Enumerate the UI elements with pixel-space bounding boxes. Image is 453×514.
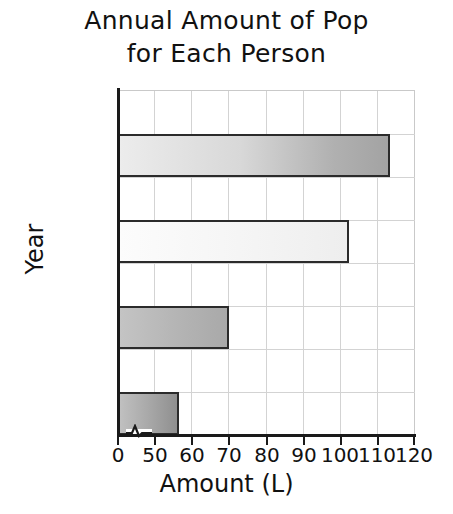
axis-break-icon	[126, 424, 152, 438]
x-tick-label-0: 0	[103, 444, 133, 466]
bar-1991	[118, 220, 349, 263]
y-axis-title: Year	[21, 194, 49, 304]
x-tick-label-50: 50	[136, 444, 174, 466]
x-axis-title: Amount (L)	[0, 470, 453, 498]
plot-area	[118, 90, 415, 434]
y-axis-line	[117, 88, 120, 437]
x-tick-label-60: 60	[173, 444, 211, 466]
x-tick-label-80: 80	[248, 444, 286, 466]
gridline-horizontal-6	[118, 349, 415, 350]
x-tick-label-70: 70	[210, 444, 248, 466]
chart-container: Annual Amount of Pop for Each Person	[0, 0, 453, 514]
gridline-horizontal-4	[118, 263, 415, 264]
x-tick-label-120: 120	[391, 444, 437, 466]
chart-title-line-1: Annual Amount of Pop	[0, 4, 453, 37]
chart-title: Annual Amount of Pop for Each Person	[0, 4, 453, 70]
bar-2001	[118, 134, 390, 177]
chart-title-line-2: for Each Person	[0, 37, 453, 70]
gridline-horizontal-2	[118, 177, 415, 178]
bar-1981	[118, 306, 229, 349]
